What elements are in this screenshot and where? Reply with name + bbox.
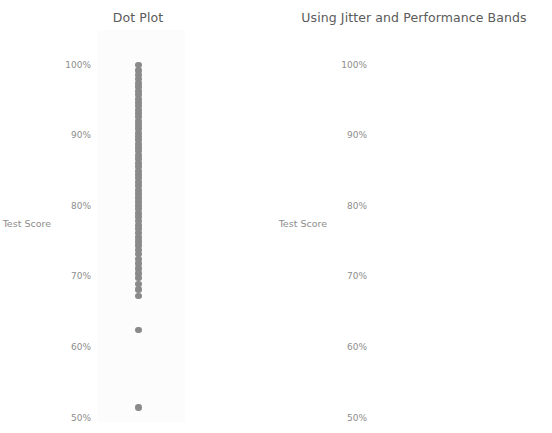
page-title: Using Jitter and Performance Bands xyxy=(276,10,552,25)
y-axis-tick-label: 80% xyxy=(347,202,367,211)
page-title: Dot Plot xyxy=(0,10,276,25)
y-axis-tick-label: 50% xyxy=(71,414,91,423)
data-point xyxy=(135,293,142,300)
y-axis-tick-label: 60% xyxy=(347,343,367,352)
data-point xyxy=(135,286,142,293)
y-axis-tick-label: 50% xyxy=(347,414,367,423)
y-axis-tick-label: 80% xyxy=(71,202,91,211)
plot-area xyxy=(97,30,185,422)
jitter-plot-panel: Using Jitter and Performance Bands Test … xyxy=(276,0,552,433)
dot-plot-panel: Dot Plot Test Score 100%90%80%70%60%50% xyxy=(0,0,276,433)
y-axis-tick-label: 60% xyxy=(71,343,91,352)
y-axis-tick-label: 70% xyxy=(71,272,91,281)
y-axis-tick-label: 90% xyxy=(71,131,91,140)
y-axis-label: Test Score xyxy=(3,219,51,229)
y-axis-tick-label: 100% xyxy=(341,61,367,70)
y-axis-tick-label: 70% xyxy=(347,272,367,281)
y-axis-tick-label: 100% xyxy=(65,61,91,70)
y-axis-tick-label: 90% xyxy=(347,131,367,140)
data-point xyxy=(135,327,142,334)
data-point xyxy=(135,404,142,411)
y-axis-label: Test Score xyxy=(279,219,327,229)
